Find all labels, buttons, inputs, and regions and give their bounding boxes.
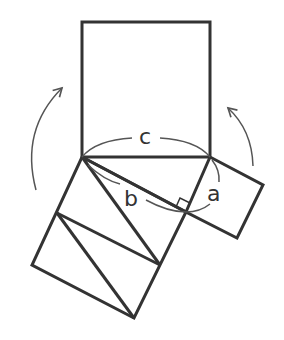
label-a: a	[207, 181, 220, 206]
square-a	[186, 157, 263, 238]
rotation-arrow-right-icon	[228, 108, 253, 166]
square-b-divider	[57, 213, 160, 265]
square-b-diagonal-1	[82, 157, 160, 265]
square-b-diagonal-2	[57, 213, 134, 318]
pythagorean-diagram: c b a	[0, 0, 284, 340]
arc-c-right	[160, 138, 210, 157]
square-b	[32, 157, 186, 318]
arc-c-left	[82, 138, 132, 157]
label-c: c	[139, 124, 151, 149]
label-b: b	[124, 186, 138, 211]
rotation-arrow-left-icon	[32, 88, 62, 190]
arc-a-top	[212, 160, 219, 182]
